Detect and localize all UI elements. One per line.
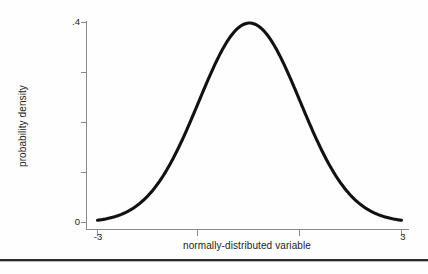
y-tick-label-bottom: 0 xyxy=(66,216,80,227)
x-axis-ticks xyxy=(98,230,402,236)
y-axis-title-text: probability density xyxy=(17,85,28,167)
page-background: .4 0 -3 3 probability density normally-d… xyxy=(0,0,428,274)
page-bottom-rule-shadow xyxy=(0,261,428,262)
plot-area xyxy=(0,0,428,258)
y-tick-label-top: .4 xyxy=(66,16,80,27)
normal-distribution-chart: .4 0 -3 3 probability density normally-d… xyxy=(0,0,428,258)
density-curve xyxy=(98,23,402,220)
y-axis-title: probability density xyxy=(14,76,30,176)
x-axis-title: normally-distributed variable xyxy=(0,240,428,251)
